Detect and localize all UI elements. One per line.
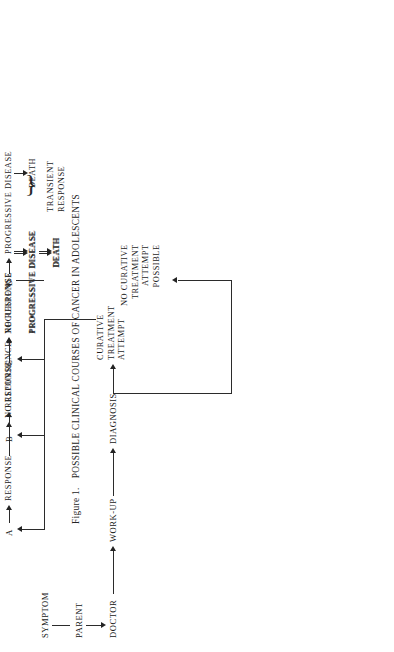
branch-curative-line2: TREATMENT [107, 305, 118, 360]
edge-spine-b [22, 435, 45, 436]
node-outcome-c-tag: C [4, 360, 14, 366]
edge-b-response-line [9, 416, 10, 430]
arrowhead-parent-doctor [101, 623, 106, 629]
node-diagnosis: DIAGNOSIS [108, 393, 118, 444]
arrowhead-workup-diagnosis [110, 448, 116, 453]
branch-curative-label: CURATIVE TREATMENT ATTEMPT [96, 305, 128, 360]
branch-no-curative-line4: POSSIBLE [152, 244, 163, 306]
node-d-death: DEATH [28, 158, 37, 188]
node-outcome-b-tag: B [4, 436, 14, 442]
arrowhead-b-response [6, 412, 12, 417]
arrowhead-branch-a [17, 527, 22, 533]
arrowhead-branch-b [17, 433, 22, 439]
annotation-transient-response: TRANSIENT RESPONSE [46, 161, 67, 212]
arrowhead-doctor-workup [110, 546, 116, 551]
edge-diagnosis-split-line [113, 368, 114, 394]
node-d-progressive-disease: PROGRESSIVE DISEASE [4, 151, 13, 254]
node-c-progressive-disease: PROGRESSIVE DISEASE [28, 231, 37, 334]
figure-page: Figure 1. POSSIBLE CLINICAL COURSES OF C… [0, 0, 394, 652]
edge-spine-a [22, 529, 45, 530]
edge-nocurative-across [231, 280, 232, 394]
branch-no-curative-label: NO CURATIVE TREATMENT ATTEMPT POSSIBLE [120, 244, 162, 306]
node-a-response: RESPONSE [4, 455, 13, 501]
edge-d-riser [16, 280, 44, 281]
edge-diagnosis-nocurative-down [113, 393, 231, 394]
edge-c-noresponse-line [9, 342, 10, 354]
annotation-transient-line2: RESPONSE [57, 161, 68, 212]
edge-a-response-line [9, 509, 10, 523]
arrowhead-branch-c [17, 357, 22, 363]
node-outcome-a-tag: A [4, 529, 14, 536]
flowchart-canvas: SYMPTOM PARENT DOCTOR WORK-UP DIAGNOSIS … [0, 0, 394, 652]
branch-curative-line3: ATTEMPT [117, 305, 128, 360]
arrowhead-nocurative [172, 278, 177, 284]
outcome-spine [44, 319, 45, 530]
node-b-response: RESPONSE [4, 362, 13, 408]
node-c-death: DEATH [52, 238, 61, 268]
edge-spine-c [22, 359, 45, 360]
edge-parent-doctor-line [86, 625, 102, 626]
edge-doctor-workup-line [113, 550, 114, 594]
node-symptom: SYMPTOM [40, 592, 50, 638]
edge-nocurative-up [178, 280, 232, 281]
node-workup: WORK-UP [108, 498, 118, 542]
branch-no-curative-line2: TREATMENT [131, 244, 142, 306]
node-outcome-d-tag: D [4, 279, 14, 286]
edge-curative-to-spine [44, 319, 96, 320]
arrowhead-c-noresponse [6, 338, 12, 343]
edge-symptom-parent-stub [52, 625, 70, 626]
node-doctor: DOCTOR [108, 600, 118, 638]
arrowhead-diagnosis-curative [110, 364, 116, 369]
node-parent: PARENT [74, 602, 84, 638]
annotation-transient-line1: TRANSIENT [46, 161, 57, 212]
branch-curative-line1: CURATIVE [96, 305, 107, 360]
edge-workup-diagnosis-line [113, 452, 114, 496]
branch-no-curative-line3: ATTEMPT [141, 244, 152, 306]
arrowhead-d-progressive [6, 258, 12, 263]
edge-d-progressive-line [9, 262, 10, 274]
branch-no-curative-line1: NO CURATIVE [120, 244, 131, 306]
arrowhead-a-response [6, 505, 12, 510]
